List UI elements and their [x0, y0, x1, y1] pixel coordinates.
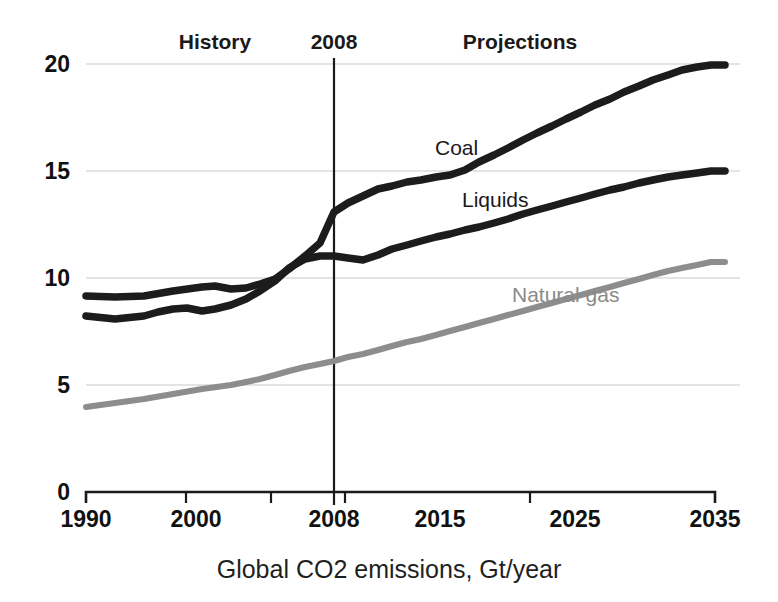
- chart-figure: 20 15 10 5 0 History 2008 Projections Co…: [0, 0, 778, 602]
- annotation-divider-year: 2008: [311, 30, 358, 53]
- gridlines: [86, 64, 740, 385]
- x-axis-line: [86, 492, 715, 503]
- x-tick-label-2035: 2035: [689, 506, 740, 532]
- x-tick-label-2025: 2025: [549, 506, 600, 532]
- y-tick-20: 20: [44, 51, 70, 77]
- x-tick-label-2008: 2008: [308, 506, 359, 532]
- x-tick-label-1990: 1990: [60, 506, 111, 532]
- y-tick-5: 5: [57, 372, 70, 398]
- y-axis-tick-labels: 20 15 10 5 0: [44, 51, 70, 505]
- y-tick-0: 0: [57, 479, 70, 505]
- annotation-history: History: [179, 30, 252, 53]
- x-tick-label-2015: 2015: [414, 506, 465, 532]
- x-axis-ticks: [186, 492, 530, 503]
- chart-caption: Global CO2 emissions, Gt/year: [217, 555, 562, 583]
- series-line-liquids: [86, 171, 725, 319]
- x-tick-label-2000: 2000: [170, 506, 221, 532]
- x-axis-tick-labels: 1990 2000 2008 2015 2025 2035: [60, 506, 740, 532]
- series-label-coal: Coal: [435, 136, 478, 159]
- annotation-projections: Projections: [463, 30, 577, 53]
- chart-canvas: 20 15 10 5 0 History 2008 Projections Co…: [0, 0, 778, 602]
- y-tick-15: 15: [44, 158, 70, 184]
- series-label-natural-gas: Natural gas: [512, 283, 619, 306]
- series-label-liquids: Liquids: [462, 188, 529, 211]
- y-tick-10: 10: [44, 265, 70, 291]
- series-line-coal: [86, 65, 725, 297]
